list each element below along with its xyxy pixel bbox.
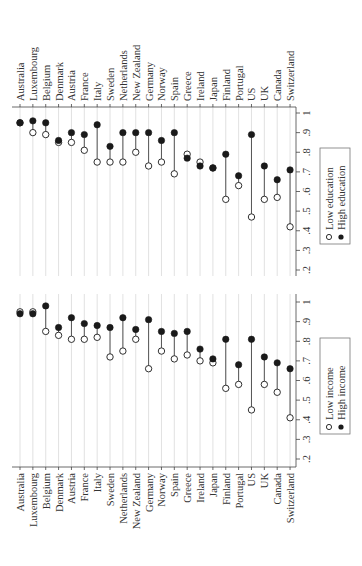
category-label: Australia [15, 473, 26, 512]
hollow-dot [235, 182, 241, 188]
hollow-dot [133, 336, 139, 342]
category-label: Canada [272, 69, 283, 101]
hollow-dot [55, 332, 61, 338]
hollow-dot [30, 129, 36, 135]
hollow-dot [145, 163, 151, 169]
category-label: Portugal [234, 65, 245, 101]
legend-label: Low education [324, 167, 335, 230]
value-tick-label: .9 [301, 129, 312, 137]
category-label: Germany [144, 472, 155, 512]
category-label: Switzerland [285, 472, 296, 523]
filled-dot [68, 315, 74, 321]
category-label: Greece [182, 71, 193, 101]
hollow-dot [287, 224, 293, 230]
value-tick-label: .3 [301, 246, 312, 254]
category-label: US [246, 87, 257, 101]
hollow-dot [274, 389, 280, 395]
filled-dot [94, 122, 100, 128]
filled-dot [81, 320, 87, 326]
filled-dot [107, 143, 113, 149]
category-label: Denmark [54, 61, 65, 101]
hollow-dot [120, 159, 126, 165]
legend-filled-marker [338, 424, 343, 429]
hollow-dot [107, 159, 113, 165]
filled-dot [197, 346, 203, 352]
filled-dot [171, 330, 177, 336]
hollow-dot [223, 385, 229, 391]
hollow-dot [43, 328, 49, 334]
filled-dot [43, 120, 49, 126]
filled-dot [248, 336, 254, 342]
filled-dot [184, 155, 190, 161]
hollow-dot [261, 381, 267, 387]
category-label: Finland [221, 472, 232, 505]
category-label: Germany [144, 61, 155, 101]
filled-dot [261, 354, 267, 360]
value-tick-label: .9 [301, 318, 312, 326]
category-label: UK [259, 473, 270, 489]
filled-dot [133, 129, 139, 135]
hollow-dot [120, 348, 126, 354]
category-label: UK [259, 85, 270, 101]
filled-dot [223, 336, 229, 342]
value-tick-label: .6 [301, 377, 312, 385]
category-label: Australia [15, 62, 26, 101]
category-label: Spain [169, 76, 180, 101]
filled-dot [17, 311, 23, 317]
category-label: Austria [66, 70, 77, 101]
filled-dot [274, 360, 280, 366]
value-tick-label: .8 [301, 148, 312, 156]
figure: AustraliaLuxembourgBelgiumDenmarkAustria… [0, 0, 362, 566]
filled-dot [120, 315, 126, 321]
hollow-dot [94, 159, 100, 165]
legend-label: High education [336, 165, 347, 230]
filled-dot [94, 322, 100, 328]
hollow-dot [145, 366, 151, 372]
filled-dot [248, 131, 254, 137]
value-tick-label: .5 [301, 207, 312, 215]
category-label: Austria [66, 473, 77, 504]
category-label: Japan [208, 472, 219, 497]
hollow-dot [94, 334, 100, 340]
filled-dot [223, 151, 229, 157]
filled-dot [30, 118, 36, 124]
category-label: Sweden [105, 472, 116, 506]
category-label: Luxembourg [28, 472, 39, 527]
filled-dot [171, 129, 177, 135]
category-label: Denmark [54, 472, 65, 512]
hollow-dot [107, 354, 113, 360]
value-tick-label: .7 [301, 168, 312, 176]
category-label: France [79, 72, 90, 101]
category-label: Greece [182, 473, 193, 503]
category-label: Norway [156, 66, 167, 101]
category-label: Netherlands [118, 50, 129, 101]
value-tick-label: 1 [301, 299, 312, 304]
value-tick-label: .7 [301, 357, 312, 365]
value-tick-label: .3 [301, 435, 312, 443]
hollow-dot [43, 131, 49, 137]
hollow-dot [68, 336, 74, 342]
category-label: Italy [92, 472, 103, 492]
category-label: Canada [272, 473, 283, 505]
hollow-dot [184, 352, 190, 358]
category-label: Belgium [41, 473, 52, 509]
category-label: Belgium [41, 65, 52, 101]
hollow-dot [248, 214, 254, 220]
hollow-dot [158, 348, 164, 354]
category-label: Japan [208, 76, 219, 101]
filled-dot [55, 324, 61, 330]
category-label: Switzerland [285, 50, 296, 101]
value-tick-label: .4 [301, 415, 312, 424]
hollow-dot [81, 147, 87, 153]
hollow-dot [274, 194, 280, 200]
value-tick-label: .5 [301, 396, 312, 404]
hollow-dot [158, 159, 164, 165]
filled-dot [30, 311, 36, 317]
education-chart: AustraliaLuxembourgBelgiumDenmarkAustria… [12, 44, 350, 276]
income-chart: AustraliaLuxembourgBelgiumDenmarkAustria… [12, 294, 350, 529]
filled-dot [274, 177, 280, 183]
value-tick-label: .6 [301, 188, 312, 196]
filled-dot [133, 326, 139, 332]
hollow-dot [261, 196, 267, 202]
filled-dot [184, 328, 190, 334]
